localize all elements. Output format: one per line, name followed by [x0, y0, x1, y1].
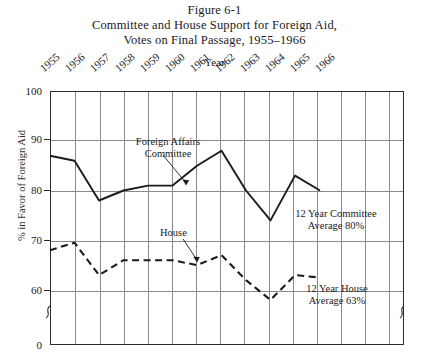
leader-line-house	[183, 239, 197, 260]
annotation-house-average: 12 Year House Average 63%	[290, 283, 384, 307]
axis-break-left-icon	[46, 306, 50, 318]
annotation-committee-label: Foreign Affairs Committee	[116, 136, 220, 160]
annotation-committee-average: 12 Year Committee Average 80%	[282, 208, 390, 232]
annotation-house-label: House	[160, 227, 187, 239]
annotation-committee-line-1: Foreign Affairs	[116, 136, 220, 148]
leader-arrow-house	[193, 257, 200, 263]
series-line-committee	[50, 151, 320, 221]
annotation-house-avg-line-1: 12 Year House	[290, 283, 384, 295]
annotation-house-avg-line-2: Average 63%	[290, 295, 384, 307]
series-line-house	[50, 243, 320, 300]
data-lines-overlay	[0, 0, 429, 364]
annotation-committee-line-2: Committee	[116, 148, 220, 160]
annotation-committee-avg-line-2: Average 80%	[282, 220, 390, 232]
annotation-committee-avg-line-1: 12 Year Committee	[282, 208, 390, 220]
figure-6-1: Figure 6-1 Committee and House Support f…	[0, 0, 429, 364]
leader-arrow-committee	[183, 180, 190, 186]
axis-break-right-icon	[400, 306, 404, 318]
